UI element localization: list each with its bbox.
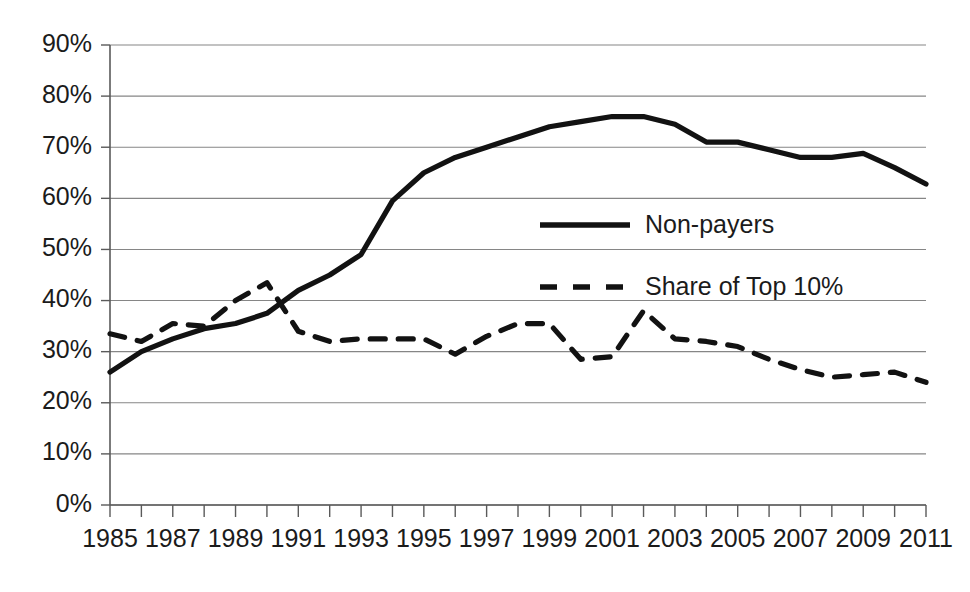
x-tick-label: 2009 bbox=[835, 524, 891, 552]
y-tick-label: 40% bbox=[42, 284, 92, 312]
y-tick-label: 30% bbox=[42, 335, 92, 363]
y-tick-label: 70% bbox=[42, 131, 92, 159]
x-tick-label: 2011 bbox=[899, 524, 953, 552]
y-tick-label: 20% bbox=[42, 386, 92, 414]
x-tick-label: 2007 bbox=[773, 524, 829, 552]
y-tick-label: 50% bbox=[42, 233, 92, 261]
y-tick-label: 60% bbox=[42, 182, 92, 210]
legend-label: Share of Top 10% bbox=[645, 272, 843, 300]
chart-container: 0%10%20%30%40%50%60%70%80%90% 1985198719… bbox=[0, 0, 970, 592]
x-tick-label: 1991 bbox=[270, 524, 326, 552]
x-tick-label: 2001 bbox=[584, 524, 640, 552]
line-chart: 0%10%20%30%40%50%60%70%80%90% 1985198719… bbox=[0, 0, 970, 592]
x-tick-label: 1987 bbox=[145, 524, 201, 552]
x-tick-label: 1995 bbox=[396, 524, 452, 552]
y-tick-label: 80% bbox=[42, 80, 92, 108]
x-tick-label: 1993 bbox=[333, 524, 389, 552]
y-tick-label: 0% bbox=[56, 489, 92, 517]
x-tick-label: 1999 bbox=[522, 524, 578, 552]
x-tick-label: 1989 bbox=[208, 524, 264, 552]
x-tick-label: 2005 bbox=[710, 524, 766, 552]
legend-label: Non-payers bbox=[645, 210, 774, 238]
y-tick-label: 10% bbox=[42, 437, 92, 465]
x-tick-label: 1985 bbox=[82, 524, 138, 552]
y-tick-label: 90% bbox=[42, 29, 92, 57]
x-tick-label: 1997 bbox=[459, 524, 515, 552]
x-tick-label: 2003 bbox=[647, 524, 703, 552]
